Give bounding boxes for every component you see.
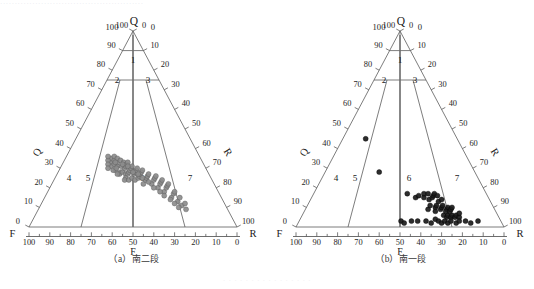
tick-right-100 xyxy=(237,225,241,227)
tick-label-right-80: 80 xyxy=(223,178,231,187)
data-point xyxy=(428,203,433,208)
ternary-plot-svg: 0102030405060708090100010203040506070809… xyxy=(0,9,267,274)
bottom-partial-text: · · · · · · · · · · · · · · · · xyxy=(0,276,534,289)
region-label-2: 2 xyxy=(115,75,120,85)
tick-left-0 xyxy=(25,225,29,227)
tick-right-50 xyxy=(452,127,456,129)
region-labels-group: 1234567 xyxy=(334,55,460,183)
data-point xyxy=(457,211,462,216)
data-point xyxy=(125,164,130,169)
data-point xyxy=(120,162,125,167)
tick-label-bottom-60: 60 xyxy=(108,238,116,247)
tick-left-70 xyxy=(98,88,102,90)
tick-left-20 xyxy=(313,186,317,188)
data-point xyxy=(440,203,445,208)
data-point xyxy=(106,166,111,171)
tick-label-bottom-20: 20 xyxy=(191,238,199,247)
data-point xyxy=(176,205,181,210)
tick-left-50 xyxy=(344,127,348,129)
tick-left-80 xyxy=(375,68,379,70)
left-axis-label-Q: Q xyxy=(30,146,44,159)
tick-label-left-0: 0 xyxy=(16,217,20,226)
region-label-5: 5 xyxy=(353,173,358,183)
data-point xyxy=(448,219,453,224)
tick-label-right-90: 90 xyxy=(501,197,509,206)
apex-value-0: 0 xyxy=(151,22,155,32)
top-partial-text: ········································… xyxy=(0,0,534,9)
caption-index: （b） xyxy=(375,254,400,264)
tick-right-80 xyxy=(483,186,487,188)
tick-label-right-50: 50 xyxy=(192,119,200,128)
tick-label-bottom-10: 10 xyxy=(479,238,487,247)
data-point xyxy=(405,191,410,196)
tick-label-left-30: 30 xyxy=(45,158,53,167)
tick-label-right-10: 10 xyxy=(150,41,158,50)
tick-right-90 xyxy=(227,205,231,207)
tick-left-10 xyxy=(303,205,307,207)
tick-label-left-20: 20 xyxy=(301,178,309,187)
tick-right-40 xyxy=(175,107,179,109)
caption-index: （a） xyxy=(108,254,132,264)
region-label-5: 5 xyxy=(86,173,91,183)
data-point xyxy=(153,174,158,179)
tick-right-0 xyxy=(400,29,404,31)
tick-label-bottom-70: 70 xyxy=(354,238,362,247)
tick-right-100 xyxy=(504,225,508,227)
tick-label-bottom-40: 40 xyxy=(150,238,158,247)
tick-right-90 xyxy=(494,205,498,207)
tick-label-right-100: 100 xyxy=(242,217,255,226)
data-point xyxy=(113,160,118,165)
data-point xyxy=(106,154,111,159)
data-point xyxy=(450,205,455,210)
tick-label-bottom-100: 100 xyxy=(290,238,303,247)
data-point xyxy=(183,201,188,206)
tick-right-60 xyxy=(462,147,466,149)
vertex-label-F: F xyxy=(277,228,283,239)
region-label-3: 3 xyxy=(413,75,418,85)
data-point xyxy=(160,177,165,182)
region-label-6: 6 xyxy=(407,173,412,183)
tick-label-left-50: 50 xyxy=(333,119,341,128)
data-point xyxy=(457,219,462,224)
caption-text: 南一段 xyxy=(399,254,426,264)
tick-label-left-40: 40 xyxy=(322,139,330,148)
tick-label-right-70: 70 xyxy=(480,158,488,167)
tick-label-right-40: 40 xyxy=(182,99,190,108)
tick-left-80 xyxy=(108,68,112,70)
data-point xyxy=(172,189,177,194)
data-point xyxy=(426,191,431,196)
data-point xyxy=(468,221,473,226)
data-point xyxy=(433,209,438,214)
tick-label-left-80: 80 xyxy=(364,60,372,69)
tick-left-100 xyxy=(396,29,400,31)
panel-caption: （a）南二段 xyxy=(0,251,267,265)
data-point xyxy=(439,197,444,202)
tick-right-20 xyxy=(421,68,425,70)
data-point xyxy=(409,219,414,224)
tick-left-20 xyxy=(46,186,50,188)
tick-left-90 xyxy=(386,49,390,51)
apex-label-Q: Q xyxy=(397,15,406,27)
tick-left-70 xyxy=(365,88,369,90)
tick-label-bottom-80: 80 xyxy=(66,238,74,247)
vertex-label-R: R xyxy=(249,228,256,239)
data-point xyxy=(476,219,481,224)
data-point xyxy=(435,193,440,198)
data-point xyxy=(146,179,151,184)
ternary-plot-svg: 0102030405060708090100010203040506070809… xyxy=(267,9,534,274)
caption-text: 南二段 xyxy=(132,254,159,264)
tick-label-right-20: 20 xyxy=(428,60,436,69)
data-point xyxy=(463,219,468,224)
data-point xyxy=(415,219,420,224)
tick-label-bottom-0: 0 xyxy=(502,238,506,247)
tick-left-60 xyxy=(88,107,92,109)
tick-label-bottom-100: 100 xyxy=(23,238,36,247)
tick-label-right-60: 60 xyxy=(469,139,477,148)
tick-label-right-50: 50 xyxy=(459,119,467,128)
vertex-label-F: F xyxy=(10,228,16,239)
apex-value-0: 0 xyxy=(418,22,422,32)
tick-right-30 xyxy=(164,88,168,90)
left-axis-label-Q: Q xyxy=(297,146,311,159)
tick-label-right-30: 30 xyxy=(438,80,446,89)
data-point xyxy=(151,185,156,190)
